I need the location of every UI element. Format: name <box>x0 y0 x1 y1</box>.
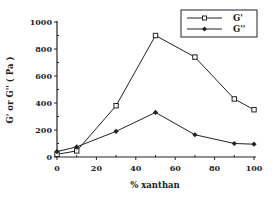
data-point <box>251 142 256 147</box>
series-g-double-prime <box>54 110 256 154</box>
data-point <box>193 55 197 59</box>
y-tick-label: 400 <box>35 98 52 108</box>
data-point <box>232 141 237 146</box>
legend-label-g-prime: G' <box>233 13 243 23</box>
data-point <box>192 132 197 137</box>
x-tick-label: 60 <box>170 163 182 173</box>
y-tick-label: 800 <box>35 44 52 54</box>
x-tick-label: 40 <box>130 163 142 173</box>
x-tick-label: 80 <box>209 163 221 173</box>
y-axis-label: G' or G'' ( Pa ) <box>5 57 15 124</box>
series-g-prime <box>55 33 256 156</box>
x-tick-label: 100 <box>246 163 263 173</box>
plot-area <box>54 33 256 156</box>
data-point <box>114 104 118 108</box>
legend-label-g-double-prime: G'' <box>233 24 245 34</box>
legend: G' G'' <box>181 10 257 37</box>
y-tick-label: 200 <box>35 125 52 135</box>
x-tick-label: 20 <box>91 163 103 173</box>
y-tick-label: 600 <box>35 71 52 81</box>
data-point <box>153 110 158 115</box>
data-point <box>153 33 157 37</box>
x-tick-label: 0 <box>54 163 60 173</box>
data-point <box>252 108 256 112</box>
data-point <box>114 129 119 134</box>
x-axis-label: % xanthan <box>130 180 180 190</box>
y-tick-label: 1000 <box>30 17 53 27</box>
open-square-marker-icon <box>203 16 207 20</box>
y-tick-label: 0 <box>46 152 52 162</box>
data-point <box>232 97 236 101</box>
chart: 02004006008001000020406080100 G' or G'' … <box>0 0 277 198</box>
